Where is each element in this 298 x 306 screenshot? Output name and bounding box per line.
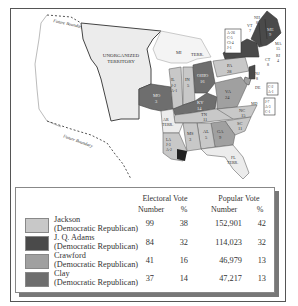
de-split-2: A-1	[268, 90, 274, 94]
adams-ev-percent: 32	[170, 238, 188, 247]
ev-number-header: Number	[134, 205, 168, 214]
md-split-3: C-1	[265, 110, 271, 114]
michigan-territory	[153, 31, 211, 63]
ms-label: MS	[187, 131, 194, 136]
us-map-1824: Future Boundary Future Boundary UNORGANI…	[11, 9, 285, 187]
ga-label: GA	[217, 129, 224, 134]
crawford-swatch	[25, 254, 49, 269]
oh-votes: 16	[200, 79, 205, 84]
florida-territory	[201, 145, 249, 179]
crawford-name: Crawford	[54, 251, 86, 260]
pv-percent-header: %	[250, 205, 270, 214]
la-split-1: J-3	[166, 143, 171, 147]
ny-split-3: Cl-4	[227, 41, 234, 45]
legend-panel: Electoral Vote Popular Vote Number % Num…	[15, 187, 275, 293]
fl-terr-label: TERR.	[227, 160, 238, 165]
clay-ev-percent: 14	[170, 274, 188, 283]
future-boundary-label-north: Future Boundary	[52, 18, 84, 30]
unorganized-label-1: UNORGANIZED	[103, 53, 140, 58]
in-label: IN	[185, 77, 190, 82]
future-boundary-south	[47, 121, 131, 179]
jackson-swatch	[25, 218, 49, 233]
ny-split-1: A-26	[227, 31, 235, 35]
clay-swatch	[25, 272, 49, 287]
la-split-2: A-2	[166, 148, 172, 152]
adams-pv-percent: 32	[250, 238, 266, 247]
ny-split-2: C-5	[227, 36, 233, 40]
nc-votes: 15	[241, 113, 246, 118]
ny-split-4: J-1	[227, 46, 232, 50]
de-split-1: C-2	[268, 85, 274, 89]
la-adams-portion	[177, 149, 187, 161]
crawford-party: (Democratic Republican)	[54, 260, 138, 269]
nj-votes: 8	[256, 76, 258, 81]
adams-pv-number: 114,023	[202, 238, 242, 247]
electoral-vote-header: Electoral Vote	[130, 194, 200, 203]
adams-party: (Democratic Republican)	[54, 242, 138, 251]
crawford-ev-number: 41	[136, 256, 154, 265]
election-map: Future Boundary Future Boundary UNORGANI…	[11, 9, 285, 187]
ma-votes: 15	[276, 46, 280, 51]
adams-name: J. Q. Adams	[54, 233, 95, 242]
clay-ev-number: 37	[136, 274, 154, 283]
pacific-coast	[35, 15, 61, 127]
vt-votes: 7	[249, 28, 251, 33]
jackson-pv-percent: 42	[250, 219, 266, 228]
clay-name: Clay	[54, 269, 70, 278]
pv-number-header: Number	[204, 205, 244, 214]
jackson-name: Jackson	[54, 215, 80, 224]
clay-pv-number: 47,217	[202, 274, 242, 283]
la-label: LA	[166, 138, 171, 142]
ky-votes: 14	[197, 106, 202, 111]
ct-votes: 8	[267, 62, 269, 67]
adams-swatch	[25, 236, 49, 251]
state-va	[215, 77, 247, 109]
al-label: AL	[203, 129, 209, 134]
adams-ev-number: 84	[136, 238, 154, 247]
terr-label: TERR.	[191, 52, 204, 57]
il-label: IL	[171, 77, 175, 82]
md-label: MD	[251, 101, 258, 106]
crawford-ev-percent: 16	[170, 256, 188, 265]
ar-terr-label: TERR.	[162, 122, 173, 127]
map-frame: Future Boundary Future Boundary UNORGANI…	[10, 8, 286, 302]
jackson-ev-number: 99	[136, 219, 154, 228]
crawford-pv-percent: 13	[250, 256, 266, 265]
va-votes: 24	[225, 95, 230, 100]
clay-party: (Democratic Republican)	[54, 278, 138, 287]
jackson-pv-number: 152,901	[202, 219, 242, 228]
crawford-pv-number: 46,979	[202, 256, 242, 265]
ev-percent-header: %	[174, 205, 194, 214]
md-split-2: A-3	[265, 105, 271, 109]
pa-votes: 28	[227, 69, 232, 74]
tn-votes: 11	[203, 117, 207, 122]
clay-pv-percent: 13	[250, 274, 266, 283]
jackson-ev-percent: 38	[170, 219, 188, 228]
il-split-2: A-1	[171, 88, 177, 93]
popular-vote-header: Popular Vote	[206, 194, 272, 203]
future-boundary-label-south: Future Boundary	[62, 133, 94, 149]
pa-label: PA	[227, 63, 233, 68]
va-label: VA	[225, 89, 232, 94]
ky-label: KY	[197, 100, 204, 105]
unorganized-label-2: TERRITORY	[107, 59, 135, 64]
jackson-party: (Democratic Republican)	[54, 224, 138, 233]
mi-label: MI	[176, 50, 182, 55]
ri-votes: 4	[277, 58, 279, 63]
mo-label: MO	[153, 93, 161, 98]
oh-label: OHIO	[197, 73, 209, 78]
md-split-1: J-7	[265, 100, 270, 104]
de-label: DE	[255, 85, 261, 90]
sc-votes: 11	[238, 126, 242, 131]
nh-votes: 8	[256, 20, 258, 25]
